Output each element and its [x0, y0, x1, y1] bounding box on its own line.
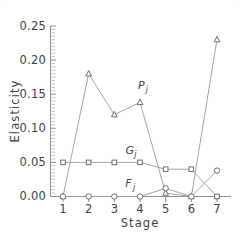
chart-canvas: 0.000.050.100.150.200.25 Elasticity 1234…: [0, 0, 250, 235]
series-label-g: G j: [125, 144, 137, 159]
marker-Fj-stage-5: [163, 186, 168, 191]
x-tick-label: 4: [136, 202, 143, 216]
y-tick-label: 0.00: [20, 189, 46, 203]
marker-Gj-stage-2: [86, 160, 91, 165]
series-label-f-base: F: [125, 177, 132, 190]
marker-Pj-stage-7: [214, 36, 220, 41]
series-markers: [60, 36, 220, 199]
marker-Gj-stage-6: [189, 167, 194, 172]
marker-Gj-stage-5: [163, 167, 168, 172]
y-axis-tick-labels: 0.000.050.100.150.200.25: [20, 19, 46, 204]
x-axis-title: Stage: [121, 216, 160, 230]
y-tick-label: 0.05: [20, 155, 46, 169]
series-label-p: P j: [138, 79, 149, 94]
y-tick-label: 0.10: [20, 121, 46, 135]
marker-Gj-stage-7: [215, 194, 220, 199]
x-tick-label: 5: [162, 202, 169, 216]
series-label-f-subscript: j: [132, 183, 136, 192]
y-axis-title: Elasticity: [8, 79, 22, 142]
series-polylines: [63, 40, 217, 197]
marker-Fj-stage-3: [112, 194, 117, 199]
y-axis: 0.000.050.100.150.200.25 Elasticity: [8, 19, 57, 204]
series-label-f: F j: [125, 177, 136, 192]
marker-Gj-stage-3: [112, 160, 117, 165]
x-tick-label: 3: [111, 202, 118, 216]
x-tick-label: 2: [85, 202, 92, 216]
marker-Gj-stage-4: [138, 160, 143, 165]
marker-Fj-stage-4: [137, 194, 142, 199]
marker-Gj-stage-1: [61, 160, 66, 165]
series-label-g-base: G: [125, 144, 134, 157]
y-tick-label: 0.25: [20, 19, 46, 33]
series-line-Pj: [63, 40, 217, 197]
x-tick-label: 1: [59, 202, 66, 216]
series-label-g-subscript: j: [133, 150, 137, 159]
x-axis: 1234567 Stage: [51, 197, 232, 231]
marker-Fj-stage-6: [189, 194, 194, 199]
marker-Pj-stage-4: [137, 99, 143, 104]
y-axis-minor-ticks: [52, 29, 56, 193]
series-label-p-base: P: [138, 79, 145, 92]
y-tick-label: 0.15: [20, 87, 46, 101]
x-axis-tick-labels: 1234567: [59, 202, 220, 216]
marker-Fj-stage-2: [86, 194, 91, 199]
x-tick-label: 6: [188, 202, 195, 216]
marker-Pj-stage-2: [86, 71, 92, 76]
x-tick-label: 7: [213, 202, 220, 216]
marker-Fj-stage-7: [214, 168, 219, 173]
elasticity-stage-chart: .. ..... 0.000.050.100.150.200.25 Elasti…: [0, 0, 250, 235]
marker-Fj-stage-1: [60, 194, 65, 199]
series-label-p-subscript: j: [145, 85, 149, 94]
y-tick-label: 0.20: [20, 53, 46, 67]
